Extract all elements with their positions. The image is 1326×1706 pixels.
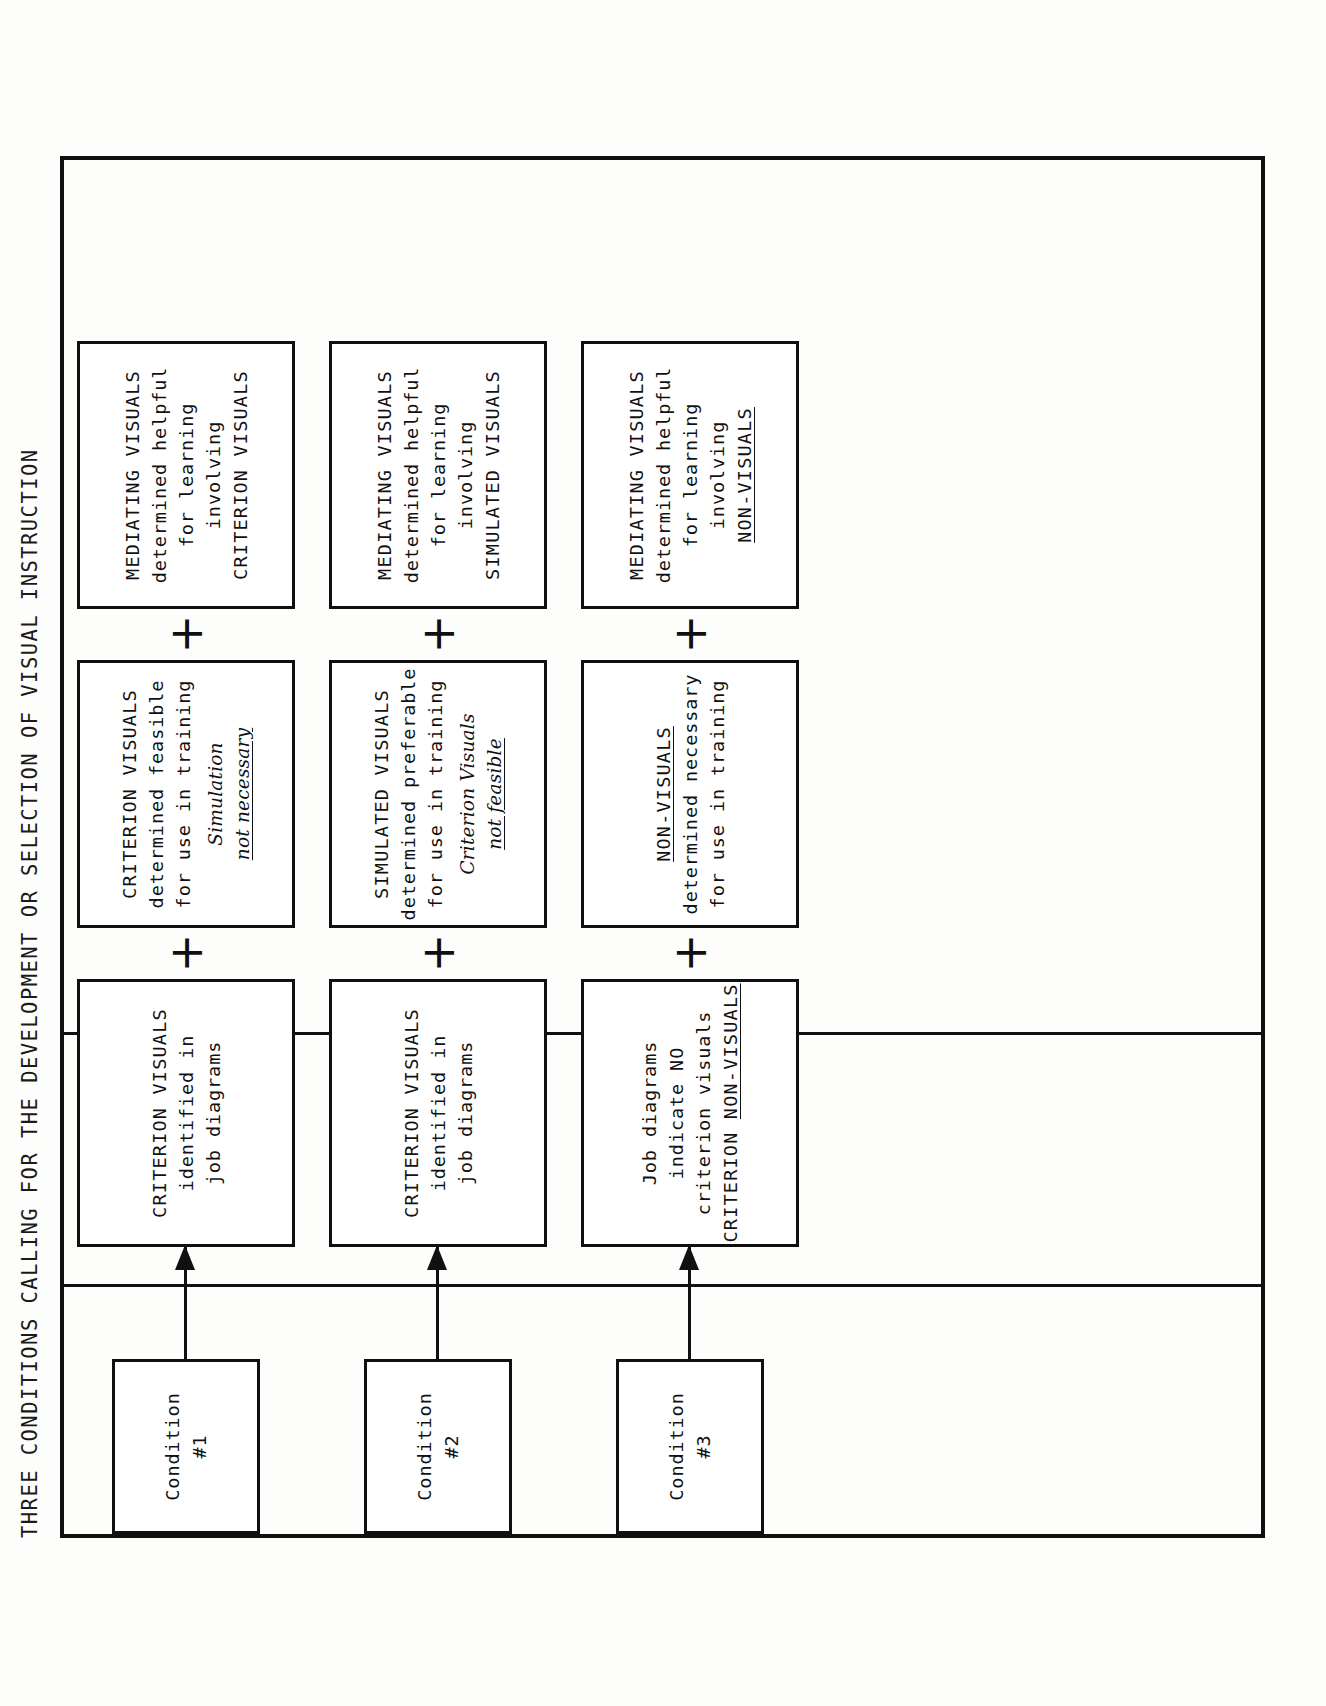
stage1-line3: job diagrams — [452, 1041, 479, 1185]
plus-icon-2b: + — [412, 608, 464, 660]
stage2-italic2: not necessary — [229, 728, 256, 860]
stage1-box-condition-1[interactable]: CRITERION VISUALS identified in job diag… — [77, 979, 295, 1247]
condition-box-2[interactable]: Condition #2 — [364, 1359, 512, 1534]
plus-icon-2a: + — [412, 927, 464, 979]
arrow-icon-condition-1 — [184, 1247, 188, 1359]
arrow-head — [175, 1245, 195, 1270]
stage3-line3: for learning — [677, 403, 704, 547]
stage2-line1: NON-VISUALS — [650, 726, 677, 862]
stage2-box-condition-1[interactable]: CRITERION VISUALS determined feasible fo… — [77, 660, 295, 928]
rotated-figure-stage: THREE CONDITIONS CALLING FOR THE DEVELOP… — [0, 0, 1326, 1706]
condition-label-line2: #2 — [438, 1434, 465, 1458]
stage3-line2: determined helpful — [650, 367, 677, 584]
stage1-line4-prefix: CRITERION — [720, 1119, 741, 1242]
condition-divider-1 — [60, 1284, 1265, 1287]
arrow-head — [427, 1245, 447, 1270]
condition-label-line1: Condition — [159, 1392, 186, 1500]
stage3-line5: CRITERION VISUALS — [227, 370, 254, 580]
stage1-box-condition-3[interactable]: Job diagrams indicate NO criterion visua… — [581, 979, 799, 1247]
stage1-box-condition-2[interactable]: CRITERION VISUALS identified in job diag… — [329, 979, 547, 1247]
stage1-line4-underlined: NON-VISUALS — [720, 983, 741, 1119]
condition-label-line2: #1 — [186, 1434, 213, 1458]
stage3-line2: determined helpful — [146, 367, 173, 584]
condition-label-line1: Condition — [411, 1392, 438, 1500]
stage1-line1: CRITERION VISUALS — [146, 1008, 173, 1218]
condition-label-line1: Condition — [663, 1392, 690, 1500]
stage2-line3: for use in training — [422, 680, 449, 909]
stage3-line5: NON-VISUALS — [731, 407, 758, 543]
stage1-line2: identified in — [425, 1035, 452, 1192]
stage2-line3: for use in training — [704, 680, 731, 909]
stage2-italic1: Simulation — [202, 742, 229, 845]
plus-icon-1b: + — [160, 608, 212, 660]
stage2-line1: CRITERION VISUALS — [116, 689, 143, 899]
arrow-head — [679, 1245, 699, 1270]
stage3-box-condition-3[interactable]: MEDIATING VISUALS determined helpful for… — [581, 341, 799, 609]
stage3-line1: MEDIATING VISUALS — [119, 370, 146, 580]
stage2-italic1: Criterion Visuals — [454, 713, 481, 874]
stage2-line3: for use in training — [170, 680, 197, 909]
plus-icon-1a: + — [160, 927, 212, 979]
condition-box-1[interactable]: Condition #1 — [112, 1359, 260, 1534]
stage1-line2: indicate NO — [663, 1047, 690, 1179]
stage1-line4: CRITERION NON-VISUALS — [717, 983, 744, 1242]
arrow-icon-condition-3 — [688, 1247, 692, 1359]
stage2-line1: SIMULATED VISUALS — [368, 689, 395, 899]
stage3-line2: determined helpful — [398, 367, 425, 584]
stage2-box-condition-2[interactable]: SIMULATED VISUALS determined preferable … — [329, 660, 547, 928]
stage3-line3: for learning — [173, 403, 200, 547]
stage3-line1: MEDIATING VISUALS — [371, 370, 398, 580]
stage3-line4: involving — [200, 421, 227, 529]
stage2-italic2: not feasible — [481, 738, 508, 850]
stage1-line2: identified in — [173, 1035, 200, 1192]
stage2-line2: determined necessary — [677, 674, 704, 915]
stage1-line1: CRITERION VISUALS — [398, 1008, 425, 1218]
figure-page: THREE CONDITIONS CALLING FOR THE DEVELOP… — [0, 0, 1326, 1706]
stage3-line5: SIMULATED VISUALS — [479, 370, 506, 580]
figure-caption: THREE CONDITIONS CALLING FOR THE DEVELOP… — [18, 118, 42, 1538]
stage1-line3: job diagrams — [200, 1041, 227, 1185]
stage3-line4: involving — [452, 421, 479, 529]
stage3-line3: for learning — [425, 403, 452, 547]
condition-label-line2: #3 — [690, 1434, 717, 1458]
stage3-line1: MEDIATING VISUALS — [623, 370, 650, 580]
plus-icon-3a: + — [664, 927, 716, 979]
stage3-line4: involving — [704, 421, 731, 529]
stage2-box-condition-3[interactable]: NON-VISUALS determined necessary for use… — [581, 660, 799, 928]
arrow-icon-condition-2 — [436, 1247, 440, 1359]
stage2-line2: determined preferable — [395, 668, 422, 921]
stage3-box-condition-1[interactable]: MEDIATING VISUALS determined helpful for… — [77, 341, 295, 609]
stage3-box-condition-2[interactable]: MEDIATING VISUALS determined helpful for… — [329, 341, 547, 609]
stage1-line3: criterion visuals — [690, 1011, 717, 1216]
stage2-line2: determined feasible — [143, 680, 170, 909]
stage1-line1: Job diagrams — [636, 1041, 663, 1185]
plus-icon-3b: + — [664, 608, 716, 660]
condition-box-3[interactable]: Condition #3 — [616, 1359, 764, 1534]
